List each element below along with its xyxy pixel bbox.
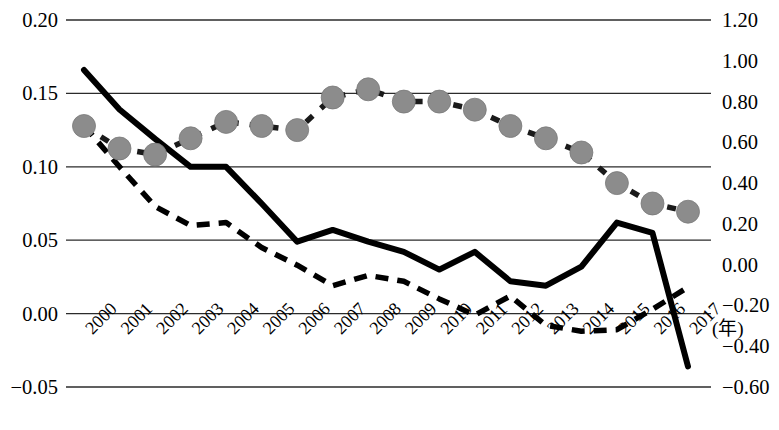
x-axis-tick-label: 2010 bbox=[436, 299, 476, 339]
x-axis-tick-label: 2011 bbox=[472, 299, 511, 338]
left-axis-tick-label: 0.20 bbox=[22, 9, 58, 31]
data-point-marker bbox=[641, 192, 664, 215]
data-point-marker bbox=[534, 127, 557, 150]
data-point-marker bbox=[677, 200, 700, 223]
left-axis-tick-label: 0.05 bbox=[22, 229, 58, 251]
x-axis-tick-label: 2008 bbox=[365, 299, 405, 339]
data-point-marker bbox=[392, 90, 415, 113]
x-axis-tick-label: 2003 bbox=[188, 299, 228, 339]
left-axis-tick-label: 0.10 bbox=[22, 156, 58, 178]
right-axis-tick-label: 0.60 bbox=[722, 131, 758, 153]
chart-canvas: 0.200.150.100.050.00−0.051.201.000.800.6… bbox=[0, 0, 779, 430]
x-axis-tick-label: 2009 bbox=[401, 299, 441, 339]
data-point-marker bbox=[428, 90, 451, 113]
right-axis-tick-label: 0.40 bbox=[722, 172, 758, 194]
x-axis-tick-label: 2000 bbox=[81, 299, 121, 339]
x-axis-tick-label: 2006 bbox=[294, 299, 334, 339]
data-point-marker bbox=[144, 143, 167, 166]
left-axis-tick-label: 0.15 bbox=[22, 82, 58, 104]
data-point-marker bbox=[321, 86, 344, 109]
data-point-marker bbox=[463, 98, 486, 121]
x-axis-tick-label: 2015 bbox=[614, 299, 654, 339]
x-axis-tick-label: 2005 bbox=[259, 299, 299, 339]
data-point-marker bbox=[215, 110, 238, 133]
right-axis-tick-label: 0.00 bbox=[722, 254, 758, 276]
data-point-marker bbox=[179, 127, 202, 150]
data-point-marker bbox=[605, 172, 628, 195]
right-axis-tick-label: 1.00 bbox=[722, 50, 758, 72]
right-axis-tick-label: −0.60 bbox=[722, 376, 769, 398]
data-point-marker bbox=[499, 115, 522, 138]
right-axis-tick-label: 0.80 bbox=[722, 91, 758, 113]
x-axis-unit-label: (年) bbox=[712, 318, 744, 340]
right-axis-tick-label: −0.20 bbox=[722, 294, 769, 316]
data-point-marker bbox=[108, 137, 131, 160]
x-axis-tick-label: 2004 bbox=[223, 299, 263, 339]
data-point-marker bbox=[357, 78, 380, 101]
x-axis-tick-label: 2001 bbox=[117, 299, 157, 339]
right-axis-tick-label: 1.20 bbox=[722, 9, 758, 31]
data-point-marker bbox=[570, 141, 593, 164]
data-point-marker bbox=[286, 119, 309, 142]
x-axis-tick-label: 2002 bbox=[152, 299, 192, 339]
left-axis-tick-label: 0.00 bbox=[22, 303, 58, 325]
x-axis-tick-label: 2007 bbox=[330, 299, 370, 339]
data-point-marker bbox=[250, 115, 273, 138]
chart-container: 0.200.150.100.050.00−0.051.201.000.800.6… bbox=[0, 0, 779, 430]
right-axis-tick-label: 0.20 bbox=[722, 213, 758, 235]
data-point-marker bbox=[73, 115, 96, 138]
left-axis-tick-label: −0.05 bbox=[11, 376, 58, 398]
